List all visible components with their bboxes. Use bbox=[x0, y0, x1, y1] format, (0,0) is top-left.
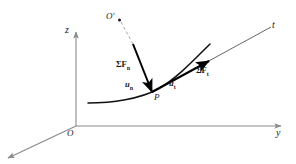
point-p-dot bbox=[151, 91, 153, 93]
tangential-force-symbol: ΣF bbox=[196, 65, 207, 75]
tangent-line-label: t bbox=[272, 19, 275, 30]
unit-normal-subscript: n bbox=[130, 85, 133, 91]
z-axis-label: z bbox=[65, 24, 69, 35]
figure-canvas: z y O O′ t P ΣFn ΣFt un ut bbox=[0, 0, 296, 164]
unit-normal-label: un bbox=[125, 79, 133, 91]
normal-force-symbol: ΣF bbox=[116, 59, 127, 69]
diagram-svg bbox=[0, 0, 296, 164]
curvature-radius-dashed bbox=[121, 22, 133, 44]
path-curve bbox=[88, 44, 210, 103]
tangential-force-label: ΣFt bbox=[196, 65, 209, 77]
tangential-force-subscript: t bbox=[207, 71, 209, 77]
normal-force-label: ΣFn bbox=[116, 59, 130, 71]
x-axis bbox=[8, 126, 76, 158]
normal-force-vector bbox=[133, 44, 152, 92]
center-of-curvature-label: O′ bbox=[106, 11, 114, 21]
normal-force-subscript: n bbox=[127, 65, 130, 71]
unit-tangent-label: ut bbox=[169, 78, 176, 90]
y-axis-label: y bbox=[276, 127, 280, 138]
center-of-curvature-dot bbox=[118, 19, 121, 22]
unit-tangent-subscript: t bbox=[174, 84, 176, 90]
origin-label: O bbox=[67, 128, 74, 138]
point-p-label: P bbox=[154, 92, 160, 102]
